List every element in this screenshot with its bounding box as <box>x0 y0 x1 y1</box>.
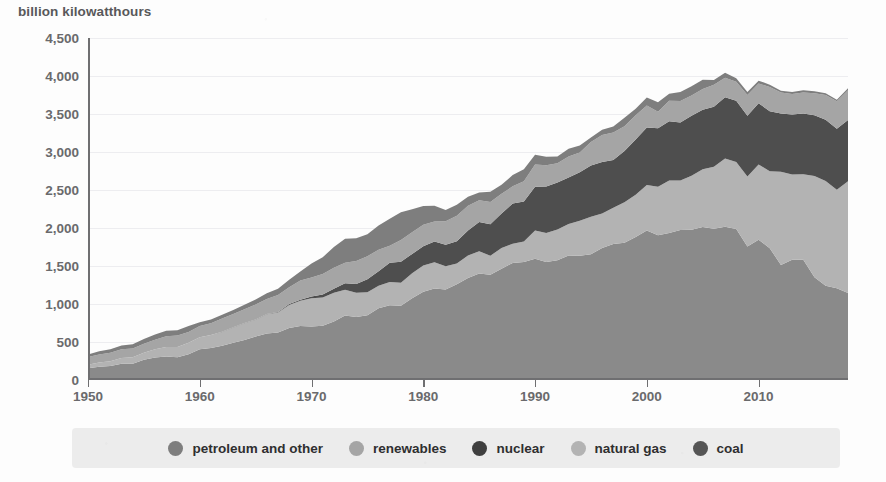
y-tick-label: 3,500 <box>45 107 79 122</box>
plot-area: 05001,0001,5002,0002,5003,0003,5004,0004… <box>88 38 848 380</box>
chart-title: billion kilowatthours <box>18 4 151 19</box>
y-tick-label: 1,000 <box>45 297 79 312</box>
stacked-area-series <box>88 38 848 380</box>
y-tick-label: 2,000 <box>45 221 79 236</box>
y-tick-label: 500 <box>56 335 79 350</box>
x-tick-mark <box>423 380 424 387</box>
legend-label: nuclear <box>496 441 544 456</box>
x-axis-line <box>88 378 848 380</box>
x-tick-mark <box>312 380 313 387</box>
x-tick-mark <box>647 380 648 387</box>
x-tick-mark <box>759 380 760 387</box>
legend-item-renewables[interactable]: renewables <box>349 441 447 456</box>
y-tick-label: 4,000 <box>45 69 79 84</box>
y-tick-label: 3,000 <box>45 145 79 160</box>
legend-label: coal <box>717 441 744 456</box>
chart-root: billion kilowatthours 05001,0001,5002,00… <box>0 0 886 482</box>
y-axis-line <box>88 38 90 380</box>
legend-swatch-icon <box>472 441 487 456</box>
x-tick-label: 1970 <box>296 389 326 404</box>
x-tick-mark <box>200 380 201 387</box>
legend-label: natural gas <box>595 441 667 456</box>
x-tick-mark <box>535 380 536 387</box>
x-tick-label: 1950 <box>73 389 103 404</box>
legend-item-nuclear[interactable]: nuclear <box>472 441 544 456</box>
x-tick-mark <box>88 380 89 387</box>
x-tick-label: 2000 <box>632 389 662 404</box>
legend-swatch-icon <box>571 441 586 456</box>
legend-swatch-icon <box>693 441 708 456</box>
y-tick-label: 0 <box>71 373 79 388</box>
y-tick-label: 1,500 <box>45 259 79 274</box>
x-tick-label: 2010 <box>744 389 774 404</box>
y-tick-label: 4,500 <box>45 31 79 46</box>
chart-legend: petroleum and otherrenewablesnuclearnatu… <box>72 428 840 468</box>
legend-item-coal[interactable]: coal <box>693 441 744 456</box>
x-tick-label: 1990 <box>520 389 550 404</box>
x-tick-label: 1980 <box>408 389 438 404</box>
legend-label: petroleum and other <box>192 441 323 456</box>
y-tick-label: 2,500 <box>45 183 79 198</box>
legend-swatch-icon <box>168 441 183 456</box>
legend-swatch-icon <box>349 441 364 456</box>
legend-label: renewables <box>373 441 447 456</box>
legend-item-natural-gas[interactable]: natural gas <box>571 441 667 456</box>
legend-item-petroleum-and-other[interactable]: petroleum and other <box>168 441 323 456</box>
x-tick-label: 1960 <box>185 389 215 404</box>
